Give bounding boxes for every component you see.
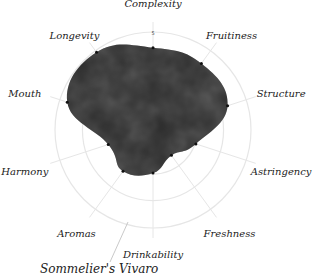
axis-label-fruitiness: Fruitiness (206, 29, 257, 40)
data-point (152, 172, 155, 175)
tick-label-5: 5 (151, 30, 154, 36)
data-point (194, 142, 197, 145)
axis-label-harmony: Harmony (1, 166, 48, 177)
axis-label-astringency: Astringency (251, 166, 312, 177)
axis-label-structure: Structure (257, 87, 306, 98)
data-polygon (66, 45, 229, 176)
axis-label-mouth: Mouth (8, 87, 41, 98)
data-point (95, 51, 98, 54)
data-point (200, 62, 203, 65)
data-point (66, 101, 69, 104)
axis-label-drinkability: Drinkability (123, 249, 183, 260)
axis-label-longevity: Longevity (49, 29, 99, 40)
data-point (170, 154, 173, 157)
data-point (152, 46, 155, 49)
axis-label-aromas: Aromas (57, 228, 96, 239)
data-point (107, 143, 110, 146)
data-point (226, 104, 229, 107)
chart-caption: Sommelier's Vivaro (40, 262, 158, 276)
data-point (122, 170, 125, 173)
axis-label-complexity: Complexity (124, 0, 181, 9)
axis-label-freshness: Freshness (204, 228, 256, 239)
